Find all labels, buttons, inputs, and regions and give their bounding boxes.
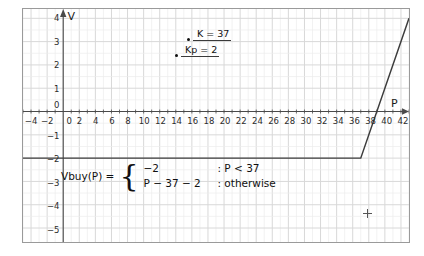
x-tick-label: 16 bbox=[187, 117, 198, 126]
x-tick-label: 0 bbox=[66, 117, 71, 126]
annotation-label: K = 37 bbox=[193, 29, 231, 41]
x-tick-label: 36 bbox=[349, 117, 360, 126]
annotation-label: Kp = 2 bbox=[181, 45, 219, 57]
y-tick-label: 1 bbox=[46, 85, 59, 94]
y-tick-label: 3 bbox=[46, 38, 59, 47]
x-tick-label: 24 bbox=[252, 117, 263, 126]
x-tick-label: 2 bbox=[77, 117, 82, 126]
x-tick-label: 10 bbox=[139, 117, 150, 126]
y-tick-label: 2 bbox=[46, 61, 59, 70]
x-tick-label: −4 bbox=[25, 117, 38, 126]
x-tick-label: 6 bbox=[109, 117, 114, 126]
x-tick-label: 20 bbox=[220, 117, 231, 126]
cursor-plus-icon bbox=[363, 209, 372, 218]
formula-case-expression: −2 bbox=[143, 161, 217, 176]
x-tick-label: 4 bbox=[93, 117, 98, 126]
piecewise-formula[interactable]: Vbuy(P) ={−2: P < 37P − 37 − 2: otherwis… bbox=[61, 161, 276, 191]
x-tick-label: 40 bbox=[381, 117, 392, 126]
x-tick-label: 26 bbox=[268, 117, 279, 126]
x-tick-label: 8 bbox=[125, 117, 130, 126]
annotation-point-kp[interactable] bbox=[175, 54, 178, 57]
y-tick-label: −2 bbox=[46, 155, 59, 164]
x-tick-label: 18 bbox=[203, 117, 214, 126]
x-tick-label: 34 bbox=[333, 117, 344, 126]
formula-brace: { bbox=[119, 163, 138, 189]
y-tick-label: 0 bbox=[46, 101, 59, 110]
annotation-kp[interactable]: Kp = 2 bbox=[181, 45, 219, 57]
x-tick-label: 14 bbox=[171, 117, 182, 126]
formula-lhs: Vbuy(P) = bbox=[61, 169, 114, 184]
y-tick-label: −3 bbox=[46, 179, 59, 188]
annotation-k[interactable]: K = 37 bbox=[193, 29, 231, 41]
formula-case-condition: : otherwise bbox=[217, 176, 275, 191]
y-tick-label: −1 bbox=[46, 132, 59, 141]
y-tick-label: 4 bbox=[46, 14, 59, 23]
y-tick-label: −5 bbox=[46, 226, 59, 235]
formula-case-row: −2: P < 37 bbox=[143, 161, 275, 176]
x-tick-label: 32 bbox=[317, 117, 328, 126]
formula-case-expression: P − 37 − 2 bbox=[143, 176, 217, 191]
x-tick-label: 28 bbox=[284, 117, 295, 126]
chart-root: −4−2024681012141618202224262830323436384… bbox=[0, 0, 424, 256]
plot-frame: −4−2024681012141618202224262830323436384… bbox=[22, 8, 410, 243]
x-tick-label: −2 bbox=[41, 117, 54, 126]
annotation-point-k[interactable] bbox=[187, 38, 190, 41]
x-tick-label: 38 bbox=[365, 117, 376, 126]
y-axis-label: V bbox=[67, 11, 75, 22]
y-tick-label: −4 bbox=[46, 202, 59, 211]
formula-case-condition: : P < 37 bbox=[217, 161, 259, 176]
formula-case-row: P − 37 − 2: otherwise bbox=[143, 176, 275, 191]
x-tick-label: 42 bbox=[397, 117, 408, 126]
x-tick-label: 12 bbox=[155, 117, 166, 126]
x-tick-label: 30 bbox=[300, 117, 311, 126]
x-tick-label: 22 bbox=[236, 117, 247, 126]
formula-cases: −2: P < 37P − 37 − 2: otherwise bbox=[143, 161, 275, 191]
x-axis-label: P bbox=[391, 98, 398, 109]
